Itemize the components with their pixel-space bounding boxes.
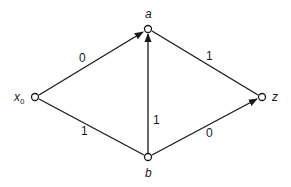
weight-b-z: 0 — [206, 126, 213, 140]
node-a — [145, 26, 152, 33]
edge-x0-a — [39, 32, 143, 95]
weight-x0-b: 1 — [81, 124, 88, 138]
node-z — [259, 94, 266, 101]
node-b — [145, 154, 152, 161]
node-x0 — [32, 94, 39, 101]
edge-b-z — [152, 99, 257, 155]
edge-x0-b — [39, 99, 144, 155]
weight-x0-a: 0 — [79, 51, 86, 65]
node-label-x0: x0 — [13, 90, 25, 106]
node-label-b: b — [145, 166, 152, 180]
edge-a-z — [152, 31, 258, 95]
node-label-a: a — [145, 7, 152, 21]
node-label-z: z — [271, 90, 278, 104]
weighted-graph: x0 a b z 0 1 1 1 0 — [0, 0, 291, 187]
weight-b-a: 1 — [153, 113, 160, 127]
weight-a-z: 1 — [206, 49, 213, 63]
